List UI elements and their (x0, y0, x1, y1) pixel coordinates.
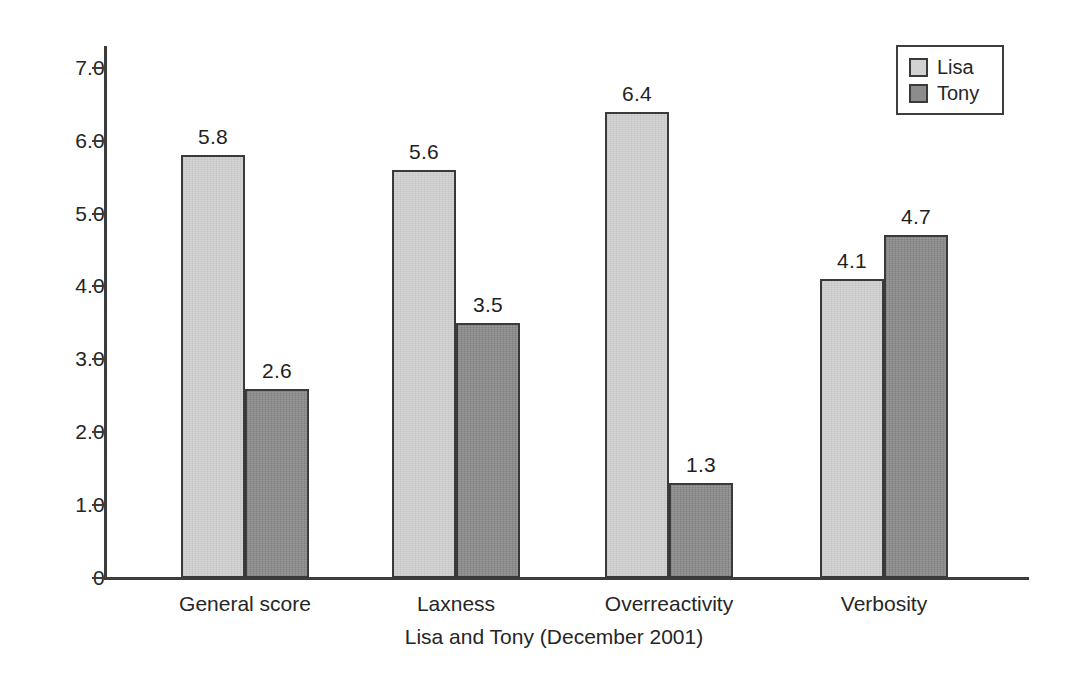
bar-tony-overreactivity (669, 483, 733, 578)
bar-value-label: 1.3 (655, 454, 747, 475)
legend: Lisa Tony (896, 45, 1004, 115)
bar-value-label: 6.4 (591, 83, 683, 104)
legend-item-lisa: Lisa (909, 54, 974, 80)
x-axis-title-text: Lisa and Tony (December 2001) (405, 625, 703, 649)
bar-chart: 01.02.03.04.05.06.07.0 5.82.65.63.56.41.… (0, 0, 1076, 686)
legend-swatch-tony (909, 84, 928, 103)
legend-swatch-lisa (909, 58, 928, 77)
bar-value-label: 4.7 (870, 206, 962, 227)
bar-tony-general-score (245, 389, 309, 578)
x-axis-title: Lisa and Tony (December 2001) (0, 625, 1076, 649)
bar-value-label: 5.6 (378, 141, 470, 162)
bar-value-label: 3.5 (442, 294, 534, 315)
legend-label-tony: Tony (937, 83, 979, 103)
bar-value-label: 2.6 (231, 360, 323, 381)
legend-item-tony: Tony (909, 80, 979, 106)
bar-value-label: 5.8 (167, 126, 259, 147)
bar-lisa-overreactivity (605, 112, 669, 578)
bar-tony-laxness (456, 323, 520, 578)
plot-area: 5.82.65.63.56.41.34.14.7 (104, 46, 1029, 578)
category-label-verbosity: Verbosity (754, 592, 1014, 616)
bar-lisa-verbosity (820, 279, 884, 578)
bar-tony-verbosity (884, 235, 948, 578)
legend-label-lisa: Lisa (937, 57, 974, 77)
bar-lisa-laxness (392, 170, 456, 578)
